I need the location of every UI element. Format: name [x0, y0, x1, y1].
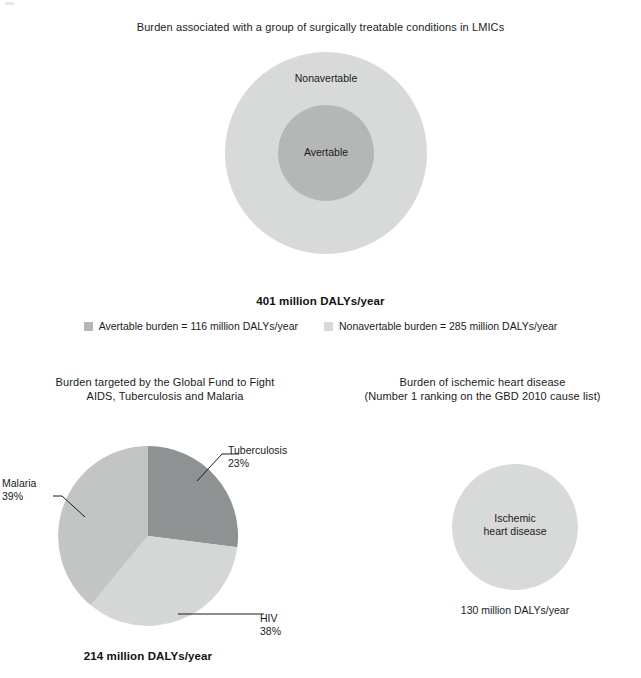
- legend-label-avertable: Avertable burden = 116 million DALYs/yea…: [99, 320, 298, 332]
- legend-item-avertable: Avertable burden = 116 million DALYs/yea…: [84, 320, 298, 332]
- pie-panel-title-line1: Burden targeted by the Global Fund to Fi…: [10, 375, 320, 389]
- pie-panel-caption: 214 million DALYs/year: [48, 650, 248, 662]
- legend-label-nonavertable: Nonavertable burden = 285 million DALYs/…: [339, 320, 557, 332]
- ihd-panel-title: Burden of ischemic heart disease (Number…: [330, 375, 635, 403]
- ihd-panel-title-line2: (Number 1 ranking on the GBD 2010 cause …: [330, 389, 635, 403]
- legend-item-nonavertable: Nonavertable burden = 285 million DALYs/…: [324, 320, 557, 332]
- ihd-label-line2: heart disease: [462, 525, 568, 538]
- ihd-label-line1: Ischemic: [462, 512, 568, 525]
- pie-panel-title: Burden targeted by the Global Fund to Fi…: [10, 375, 320, 403]
- hiv-leader-line: [178, 612, 264, 616]
- hiv-percent: 38%: [260, 625, 314, 638]
- legend: Avertable burden = 116 million DALYs/yea…: [0, 320, 641, 332]
- legend-swatch-avertable: [84, 322, 93, 331]
- nonavertable-label: Nonavertable: [256, 72, 396, 85]
- scan-artifact: [5, 2, 14, 5]
- hiv-label: HIV 38%: [260, 612, 314, 638]
- ihd-panel-title-line1: Burden of ischemic heart disease: [330, 375, 635, 389]
- tuberculosis-label: Tuberculosis 23%: [228, 444, 324, 470]
- ischemic-heart-disease-label: Ischemic heart disease: [462, 512, 568, 538]
- avertable-label: Avertable: [276, 146, 376, 159]
- legend-swatch-nonavertable: [324, 322, 333, 331]
- hiv-name: HIV: [260, 612, 314, 625]
- top-panel-caption: 401 million DALYs/year: [0, 295, 641, 307]
- top-panel-title: Burden associated with a group of surgic…: [0, 20, 641, 34]
- malaria-name: Malaria: [2, 477, 74, 490]
- pie-panel-title-line2: AIDS, Tuberculosis and Malaria: [10, 389, 320, 403]
- malaria-percent: 39%: [2, 490, 74, 503]
- malaria-label: Malaria 39%: [2, 477, 74, 503]
- tuberculosis-name: Tuberculosis: [228, 444, 324, 457]
- tuberculosis-percent: 23%: [228, 457, 324, 470]
- ihd-panel-caption: 130 million DALYs/year: [435, 604, 595, 617]
